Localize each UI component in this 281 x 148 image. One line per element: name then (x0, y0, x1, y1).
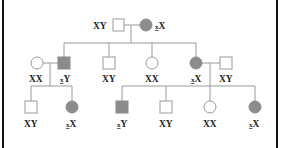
pedigree-chart: XY xX XX xY XY XX xX XY XY xX xY XY XX x… (0, 0, 281, 148)
genotype-label: xY (117, 119, 128, 129)
genotype-label: xX (66, 119, 77, 129)
male-unaffected-symbol (25, 101, 37, 113)
pedigree-frame: XY xX XX xY XY XX xX XY XY xX xY XY XX x… (0, 0, 281, 148)
male-affected-symbol (116, 101, 128, 113)
genotype-label: XX (203, 119, 217, 129)
female-affected-symbol (140, 19, 152, 31)
female-unaffected-symbol (204, 101, 216, 113)
female-affected-symbol (249, 101, 261, 113)
female-affected-symbol (190, 57, 202, 69)
genotype-label: XY (159, 119, 173, 129)
genotype-label: xY (60, 74, 71, 84)
genotype-label: XY (102, 74, 116, 84)
genotype-label: XX (29, 74, 43, 84)
genotype-label: XY (219, 74, 233, 84)
male-affected-symbol (58, 57, 70, 69)
genotype-label: XY (24, 119, 38, 129)
male-unaffected-symbol (103, 57, 115, 69)
genotype-label: XY (93, 21, 107, 31)
male-unaffected-symbol (220, 57, 232, 69)
genotype-label: XX (145, 74, 159, 84)
female-unaffected-symbol (31, 57, 43, 69)
genotype-label: xX (191, 74, 202, 84)
genotype-label: xX (249, 119, 260, 129)
male-unaffected-symbol (160, 101, 172, 113)
genotype-label: xX (155, 21, 166, 31)
female-unaffected-symbol (146, 57, 158, 69)
male-unaffected-symbol (113, 19, 124, 31)
female-affected-symbol (66, 101, 78, 113)
